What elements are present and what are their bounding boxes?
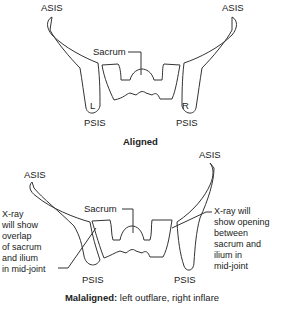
caption-aligned: Aligned — [123, 136, 158, 147]
left-note-leader — [58, 228, 96, 268]
sacrum-label-malaligned: Sacrum — [84, 203, 117, 214]
sacrum-malaligned — [92, 220, 172, 258]
psis-right-label-aligned: PSIS — [176, 117, 198, 128]
asis-left-label-malaligned: ASIS — [24, 169, 46, 180]
left-ilium-aligned — [48, 17, 101, 113]
sacrum-label-aligned: Sacrum — [93, 46, 126, 57]
left-side-marker: L — [90, 100, 95, 111]
caption-malaligned: Malaligned: left outflare, right inflare — [0, 292, 284, 303]
psis-left-label-malaligned: PSIS — [82, 274, 104, 285]
right-ilium-aligned — [182, 17, 237, 113]
asis-right-label-malaligned: ASIS — [199, 149, 221, 160]
sacrum-pointer-malaligned — [122, 209, 133, 233]
right-xray-note: X-ray will show opening between sacrum a… — [214, 206, 270, 272]
right-note-leader — [172, 212, 212, 228]
asis-left-label-aligned: ASIS — [41, 2, 63, 13]
right-side-marker: R — [182, 100, 189, 111]
psis-right-label-malaligned: PSIS — [174, 274, 196, 285]
asis-right-label-aligned: ASIS — [222, 2, 244, 13]
left-xray-note: X-ray will show overlap of sacrum and il… — [2, 209, 46, 275]
psis-left-label-aligned: PSIS — [84, 117, 106, 128]
